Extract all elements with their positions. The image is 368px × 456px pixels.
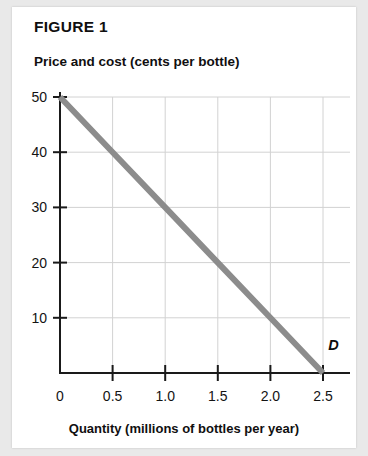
y-axis-tick-label: 50 bbox=[31, 89, 47, 105]
x-axis-tick-label: 2.0 bbox=[261, 388, 281, 404]
demand-curve-line bbox=[60, 97, 323, 373]
x-axis-tick-label: 0.5 bbox=[103, 388, 123, 404]
y-axis-tick-label: 10 bbox=[31, 310, 47, 326]
figure-card: FIGURE 1 Price and cost (cents per bottl… bbox=[12, 7, 356, 448]
y-axis-tick-label: 40 bbox=[31, 144, 47, 160]
x-axis-tick-label: 1.5 bbox=[208, 388, 228, 404]
horizontal-gridlines bbox=[60, 97, 350, 318]
chart-axes bbox=[59, 92, 350, 373]
x-axis-ticks: 00.51.01.52.02.5 bbox=[56, 365, 333, 404]
x-axis-tick-label: 2.5 bbox=[313, 388, 333, 404]
data-series bbox=[60, 97, 323, 373]
x-axis-title: Quantity (millions of bottles per year) bbox=[12, 421, 356, 436]
y-axis-tick-label: 20 bbox=[31, 255, 47, 271]
vertical-gridlines bbox=[113, 97, 323, 373]
chart-annotations: D bbox=[328, 337, 339, 353]
y-axis-tick-label: 30 bbox=[31, 199, 47, 215]
y-axis-ticks: 1020304050 bbox=[31, 89, 67, 326]
curve-label-d: D bbox=[328, 337, 339, 353]
demand-curve-chart: 1020304050 00.51.01.52.02.5 D bbox=[12, 7, 356, 407]
x-axis-tick-label: 1.0 bbox=[155, 388, 175, 404]
x-axis-tick-label: 0 bbox=[56, 388, 64, 404]
